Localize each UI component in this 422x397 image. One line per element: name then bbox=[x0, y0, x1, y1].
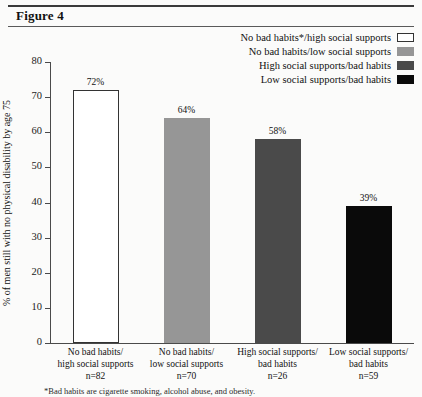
category-line2-3: bad habits bbox=[230, 359, 326, 371]
category-line1-3: High social supports/ bbox=[230, 347, 326, 359]
bar-value-label-1: 72% bbox=[66, 77, 126, 88]
bar-1 bbox=[73, 90, 119, 343]
y-tick-label-70: 70 bbox=[10, 91, 42, 101]
category-line1-2: No bad habits/ bbox=[139, 347, 235, 359]
category-line2-1: high social supports bbox=[48, 359, 144, 371]
category-label-1: No bad habits/high social supportsn=82 bbox=[48, 347, 144, 383]
bar-2 bbox=[164, 118, 210, 343]
legend-label-2: No bad habits/low social supports bbox=[249, 46, 397, 57]
legend-label-4: Low social supports/bad habits bbox=[261, 74, 397, 85]
figure-footnote: *Bad habits are cigarette smoking, alcoh… bbox=[44, 386, 416, 397]
category-line1-4: Low social supports/ bbox=[321, 347, 417, 359]
y-tick-label-80: 80 bbox=[10, 56, 42, 66]
legend-item-3: High social supports/bad habits bbox=[170, 58, 414, 72]
category-count-4: n=59 bbox=[321, 371, 417, 383]
figure-panel: Figure 4 % of men still with no physical… bbox=[0, 0, 422, 397]
bar-value-label-3: 58% bbox=[248, 126, 308, 137]
category-count-3: n=26 bbox=[230, 371, 326, 383]
category-label-3: High social supports/bad habitsn=26 bbox=[230, 347, 326, 383]
x-axis-category-labels: No bad habits/high social supportsn=82No… bbox=[50, 347, 414, 387]
y-tick-label-60: 60 bbox=[10, 126, 42, 136]
y-tick-0 bbox=[45, 343, 50, 344]
category-label-2: No bad habits/low social supportsn=70 bbox=[139, 347, 235, 383]
legend-item-2: No bad habits/low social supports bbox=[170, 44, 414, 58]
legend-item-1: No bad habits*/high social supports bbox=[170, 30, 414, 44]
legend-swatch-2 bbox=[397, 47, 414, 56]
x-axis-line bbox=[50, 343, 414, 344]
category-line2-2: low social supports bbox=[139, 359, 235, 371]
bar-value-label-4: 39% bbox=[339, 193, 399, 204]
bar-4 bbox=[346, 206, 392, 343]
category-count-1: n=82 bbox=[48, 371, 144, 383]
legend-label-3: High social supports/bad habits bbox=[259, 60, 397, 71]
figure-rule-bottom bbox=[8, 26, 414, 27]
category-line1-1: No bad habits/ bbox=[48, 347, 144, 359]
figure-title: Figure 4 bbox=[16, 7, 64, 25]
figure-rule-top bbox=[8, 5, 414, 7]
legend-swatch-1 bbox=[397, 33, 414, 42]
y-tick-label-10: 10 bbox=[10, 302, 42, 312]
legend: No bad habits*/high social supportsNo ba… bbox=[170, 30, 414, 86]
y-tick-label-30: 30 bbox=[10, 232, 42, 242]
bar-3 bbox=[255, 139, 301, 343]
y-tick-label-40: 40 bbox=[10, 197, 42, 207]
bar-value-label-2: 64% bbox=[157, 105, 217, 116]
category-line2-4: bad habits bbox=[321, 359, 417, 371]
legend-label-1: No bad habits*/high social supports bbox=[241, 32, 398, 43]
legend-swatch-3 bbox=[397, 61, 414, 70]
y-tick-label-0: 0 bbox=[10, 337, 42, 347]
legend-item-4: Low social supports/bad habits bbox=[170, 72, 414, 86]
category-label-4: Low social supports/bad habitsn=59 bbox=[321, 347, 417, 383]
y-tick-label-50: 50 bbox=[10, 161, 42, 171]
y-tick-label-20: 20 bbox=[10, 267, 42, 277]
legend-swatch-4 bbox=[397, 75, 414, 84]
category-count-2: n=70 bbox=[139, 371, 235, 383]
plot-area: 72%64%58%39% bbox=[50, 62, 413, 343]
